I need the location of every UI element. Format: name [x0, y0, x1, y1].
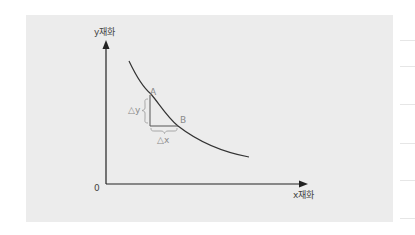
point-a-label: A [150, 88, 156, 97]
indifference-curve-diagram [0, 0, 415, 235]
delta-x-label: △x [157, 136, 169, 145]
origin-label: 0 [94, 184, 100, 193]
y-axis-arrow-icon [103, 40, 110, 49]
delta-x-brace-icon [151, 128, 177, 134]
x-axis-label: x재화 [293, 191, 314, 200]
point-b-label: B [180, 116, 186, 125]
delta-y-label: △y [128, 106, 140, 115]
indifference-curve [129, 61, 249, 157]
x-axis-arrow-icon [299, 181, 308, 188]
delta-y-brace-icon [142, 99, 148, 123]
y-axis-label: y재화 [94, 28, 115, 37]
